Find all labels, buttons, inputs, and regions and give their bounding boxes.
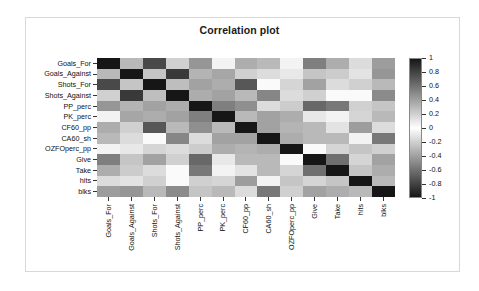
heatmap-cell [372, 69, 395, 80]
heatmap-cell [280, 101, 303, 112]
x-tick-mark [314, 197, 315, 201]
colorbar-tick: 0.6 [422, 82, 439, 91]
heatmap-cell [143, 58, 166, 69]
heatmap-cell [326, 154, 349, 165]
heatmap-cell [189, 144, 212, 155]
x-tick-mark [108, 197, 109, 201]
correlation-matrix [97, 58, 395, 197]
colorbar-tick-mark [422, 170, 426, 171]
heatmap-cell [280, 79, 303, 90]
colorbar-tick-mark [422, 72, 426, 73]
y-tick-label: PP_perc [63, 103, 91, 110]
y-tick-goals_for: Goals_For [57, 58, 97, 69]
y-tick-label: Goals_Against [44, 70, 91, 77]
colorbar-tick-mark [422, 86, 426, 87]
y-tick-mark [93, 84, 97, 85]
y-tick-mark [93, 127, 97, 128]
heatmap-cell [372, 144, 395, 155]
heatmap-cell [257, 90, 280, 101]
colorbar-tick-label: -0.6 [429, 166, 441, 173]
y-tick-goals_against: Goals_Against [44, 69, 97, 80]
heatmap-cell [303, 165, 326, 176]
heatmap-cell [120, 144, 143, 155]
heatmap-cell [97, 154, 120, 165]
heatmap-cell [326, 165, 349, 176]
heatmap-cell [326, 122, 349, 133]
x-tick-give: Give [303, 197, 326, 219]
x-tick-goals_for: Goals_For [97, 197, 120, 238]
colorbar-tick-label: 0.6 [429, 82, 439, 89]
heatmap-cell [166, 165, 189, 176]
heatmap-cell [120, 133, 143, 144]
x-tick-shots_against: Shots_Against [166, 197, 189, 250]
heatmap-cell [349, 122, 372, 133]
heatmap-cell [97, 90, 120, 101]
y-tick-label: Take [76, 167, 91, 174]
heatmap-cell [120, 90, 143, 101]
heatmap-cell [372, 101, 395, 112]
x-tick-ca60_sh: CA60_sh [257, 197, 280, 234]
colorbar-tick-mark [422, 198, 426, 199]
heatmap-cell [120, 122, 143, 133]
heatmap-cell [212, 69, 235, 80]
colorbar-tick: -0.2 [422, 138, 441, 147]
heatmap-cell [235, 144, 258, 155]
heatmap-cell [189, 186, 212, 197]
x-tick-mark [223, 197, 224, 201]
heatmap-cell [212, 122, 235, 133]
heatmap-cell [212, 101, 235, 112]
heatmap-cell [143, 176, 166, 187]
x-tick-label: hits [357, 204, 364, 215]
heatmap-cell [143, 79, 166, 90]
heatmap-cell [257, 165, 280, 176]
heatmap-cell [372, 122, 395, 133]
heatmap-cell [349, 165, 372, 176]
heatmap-cell [280, 165, 303, 176]
colorbar-tick: 1 [422, 54, 433, 63]
heatmap-cell [143, 90, 166, 101]
heatmap-cell [372, 58, 395, 69]
heatmap-cell [97, 176, 120, 187]
x-tick-blks: blks [372, 197, 395, 217]
heatmap-cell [326, 69, 349, 80]
heatmap-cell [97, 133, 120, 144]
heatmap-cell [372, 79, 395, 90]
heatmap-cell [303, 186, 326, 197]
heatmap-cell [212, 154, 235, 165]
colorbar-tick-mark [422, 100, 426, 101]
heatmap-cell [97, 101, 120, 112]
heatmap-cell [120, 154, 143, 165]
heatmap-cell [97, 122, 120, 133]
colorbar-tick: -0.4 [422, 152, 441, 161]
x-tick-goals_against: Goals_Against [120, 197, 143, 251]
heatmap-cell [235, 122, 258, 133]
heatmap-cell [303, 122, 326, 133]
y-tick-mark [93, 95, 97, 96]
heatmap-cell [280, 122, 303, 133]
heatmap-cell [257, 111, 280, 122]
x-tick-mark [360, 197, 361, 201]
colorbar-tick-mark [422, 58, 426, 59]
heatmap-cell [257, 154, 280, 165]
colorbar-tick-mark [422, 142, 426, 143]
heatmap-cell [212, 176, 235, 187]
x-tick-mark [154, 197, 155, 201]
y-tick-label: hits [80, 177, 91, 184]
y-tick-mark [93, 180, 97, 181]
x-tick-ozfoperc_pp: OZFOperc_pp [280, 197, 303, 250]
y-tick-label: Shots_For [58, 81, 91, 88]
heatmap-cell [212, 133, 235, 144]
heatmap-cell [303, 69, 326, 80]
colorbar-tick: 0 [422, 124, 433, 133]
colorbar-legend: 10.80.60.40.20-0.2-0.4-0.6-0.8-1 [409, 58, 469, 198]
x-axis: Goals_ForGoals_AgainstShots_ForShots_Aga… [97, 197, 395, 267]
heatmap-cell [143, 154, 166, 165]
heatmap-cell [189, 122, 212, 133]
heatmap-cell [257, 122, 280, 133]
heatmap-cell [372, 90, 395, 101]
y-tick-label: PK_perc [63, 113, 91, 120]
heatmap-cell [189, 69, 212, 80]
x-tick-mark [200, 197, 201, 201]
heatmap-cell [349, 58, 372, 69]
colorbar-tick-label: 0 [429, 124, 433, 131]
